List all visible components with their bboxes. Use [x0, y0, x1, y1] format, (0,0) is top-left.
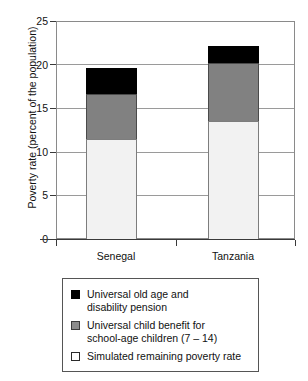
- y-tick-label-20: 20: [0, 60, 48, 70]
- y-tick-label-15: 15: [0, 103, 48, 113]
- y-tick-label-5: 5: [0, 190, 48, 200]
- bar-tanzania-child-benefit: [208, 63, 259, 122]
- bar-senegal-remaining-poverty: [86, 139, 137, 240]
- bar-tanzania-old-age-pension: [208, 46, 259, 64]
- y-tick-label-10: 10: [0, 147, 48, 157]
- gray-swatch-icon: [71, 321, 80, 330]
- chart-legend: Universal old age and disability pension…: [62, 278, 259, 372]
- y-tick-label-25: 25: [0, 16, 48, 26]
- stacked-bar-chart: Poverty rate (percent of the population)…: [0, 0, 308, 270]
- legend-item-child-benefit: Universal child benefit for school-age c…: [71, 319, 217, 345]
- x-axis-line: [40, 239, 295, 240]
- white-swatch-icon: [71, 352, 80, 361]
- legend-label-old-age-pension: Universal old age and disability pension: [87, 288, 189, 314]
- bar-senegal-child-benefit: [86, 94, 137, 140]
- legend-item-remaining-poverty: Simulated remaining poverty rate: [71, 350, 241, 363]
- bar-senegal-old-age-pension: [86, 68, 137, 95]
- legend-label-remaining-poverty: Simulated remaining poverty rate: [87, 350, 241, 363]
- x-tick-left-edge: [56, 240, 57, 246]
- x-category-label-senegal: Senegal: [71, 250, 161, 262]
- x-tick-right-edge: [295, 240, 296, 246]
- legend-label-child-benefit: Universal child benefit for school-age c…: [87, 319, 217, 345]
- black-swatch-icon: [71, 290, 80, 299]
- plot-area: [56, 21, 295, 239]
- bar-tanzania-remaining-poverty: [208, 121, 259, 240]
- x-tick-category-divider: [176, 240, 177, 246]
- x-category-label-tanzania: Tanzania: [188, 250, 278, 262]
- legend-item-old-age-pension: Universal old age and disability pension: [71, 288, 189, 314]
